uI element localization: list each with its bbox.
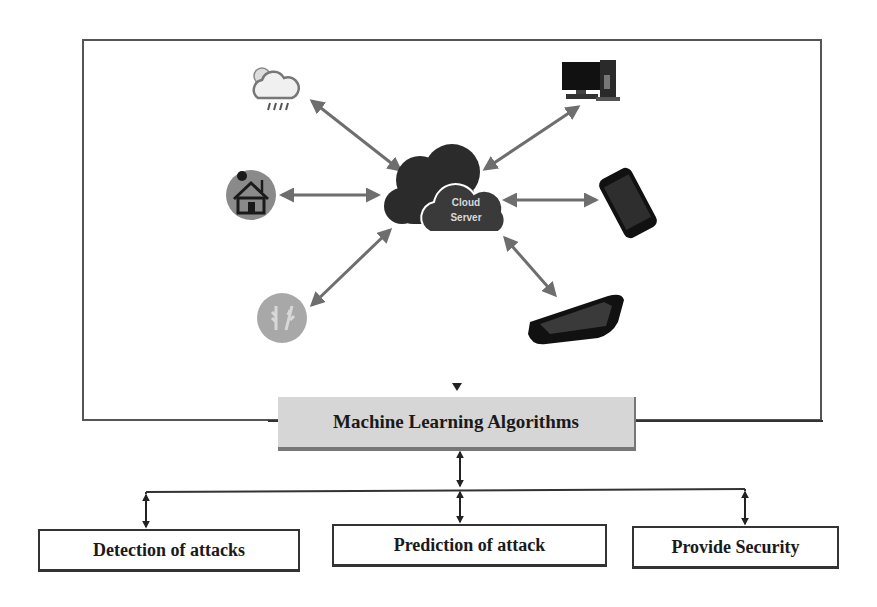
ml-input-arrowhead <box>452 383 462 391</box>
prediction-label: Prediction of attack <box>394 535 546 556</box>
agriculture-wheat-icon <box>257 293 307 343</box>
bus-line <box>146 489 745 492</box>
diagram: Cloud Server <box>0 0 877 607</box>
detection-of-attacks-box: Detection of attacks <box>38 529 300 572</box>
smart-home-icon <box>226 170 276 220</box>
ml-algorithms-box: Machine Learning Algorithms <box>278 397 636 451</box>
desktop-computer-icon <box>562 60 620 101</box>
cloud-server-icon: Cloud Server <box>384 144 505 232</box>
prediction-of-attack-box: Prediction of attack <box>332 524 607 567</box>
arrow-computer-cloud <box>485 107 578 169</box>
provide-security-box: Provide Security <box>632 526 839 569</box>
weather-cloud-rain-icon <box>254 68 299 110</box>
arrow-tablet-cloud <box>505 238 555 295</box>
security-label: Provide Security <box>671 537 799 558</box>
cloud-label-line1: Cloud <box>452 197 480 208</box>
smartphone-icon <box>597 165 660 240</box>
arrow-weather-cloud <box>312 101 400 170</box>
network-graphics: Cloud Server <box>0 0 877 607</box>
tablet-icon <box>528 295 624 345</box>
cloud-label-line2: Server <box>450 212 481 223</box>
arrow-agriculture-cloud <box>312 230 390 305</box>
detection-label: Detection of attacks <box>93 540 245 561</box>
ml-algorithms-label: Machine Learning Algorithms <box>333 411 579 433</box>
